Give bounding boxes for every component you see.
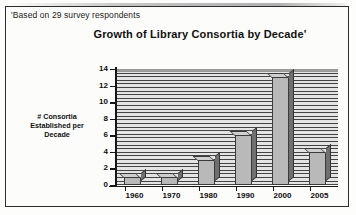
y-axis-caption-line-2: Established per (18, 121, 96, 130)
bar-side (289, 69, 294, 181)
chart-figure: 'Based on 29 survey respondents Growth o… (0, 0, 356, 215)
y-axis-tick (110, 69, 116, 70)
x-axis-tick-label: 1980 (192, 191, 226, 200)
chart-title: Growth of Library Consortia by Decade' (62, 28, 338, 40)
y-axis-tick (110, 152, 116, 153)
x-axis-tick-label: 2005 (303, 191, 337, 200)
x-axis-tick-label: 1970 (155, 191, 189, 200)
y-axis-caption-line-1: # Consortia (18, 112, 96, 121)
y-axis-tick (110, 168, 116, 169)
x-axis-tick-label: 1990 (229, 191, 263, 200)
bar-side (326, 144, 331, 181)
bar-face (198, 160, 215, 185)
bar (161, 177, 178, 185)
y-axis-tick-label: 8 (92, 114, 108, 123)
y-axis-tick-label: 2 (92, 163, 108, 172)
y-axis-tick-label: 14 (92, 64, 108, 73)
bar (272, 77, 289, 185)
y-axis-tick (110, 185, 116, 186)
y-axis-tick-label: 12 (92, 81, 108, 90)
y-axis-tick (110, 135, 116, 136)
y-axis-tick (110, 86, 116, 87)
y-axis-tick (110, 119, 116, 120)
bar (124, 177, 141, 185)
bar (309, 152, 326, 185)
y-axis-tick-label: 10 (92, 97, 108, 106)
y-axis-tick-label: 6 (92, 130, 108, 139)
bar (198, 160, 215, 185)
bar-side (215, 152, 220, 181)
bar (235, 135, 252, 185)
x-axis-tick-label: 2000 (266, 191, 300, 200)
bar-face (235, 135, 252, 185)
bar-face (309, 152, 326, 185)
bar-face (272, 77, 289, 185)
plot-area (116, 69, 338, 185)
y-axis-tick-label: 4 (92, 147, 108, 156)
plot-top-edge (116, 69, 338, 72)
x-axis-line (109, 186, 338, 188)
y-axis-caption: # Consortia Established per Decade (18, 112, 96, 139)
x-axis-tick-label: 1960 (118, 191, 152, 200)
footnote-text: 'Based on 29 survey respondents (11, 10, 140, 20)
y-axis-tick-label: 0 (92, 180, 108, 189)
y-axis-tick (110, 102, 116, 103)
plot-gridline-texture (116, 69, 338, 185)
y-axis-caption-line-3: Decade (18, 130, 96, 139)
